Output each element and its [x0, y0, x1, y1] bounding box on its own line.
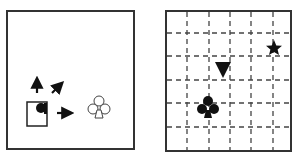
agent-square: [27, 102, 47, 126]
club-outline-icon: [88, 96, 110, 118]
diagram-overlay: [0, 0, 300, 160]
triangle-down-icon: [215, 62, 231, 78]
arrow-diagonal-icon: [52, 84, 61, 93]
dashed-grid: [167, 12, 290, 150]
star-icon: [266, 40, 282, 55]
club-icon: [197, 96, 219, 118]
